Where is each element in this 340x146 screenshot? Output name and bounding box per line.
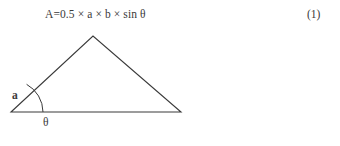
triangle-figure: a θ b (0, 25, 210, 125)
equation-number: (1) (307, 7, 320, 21)
triangle-diagram-svg (0, 25, 210, 125)
side-b-label: b (92, 145, 98, 146)
triangle-outline (11, 36, 181, 112)
side-a-label: a (12, 89, 18, 102)
angle-arc (27, 84, 43, 112)
angle-theta-label: θ (43, 116, 49, 129)
area-formula: A=0.5 × a × b × sin θ (45, 7, 146, 21)
figure-page: A=0.5 × a × b × sin θ (1) a θ b (0, 0, 340, 146)
